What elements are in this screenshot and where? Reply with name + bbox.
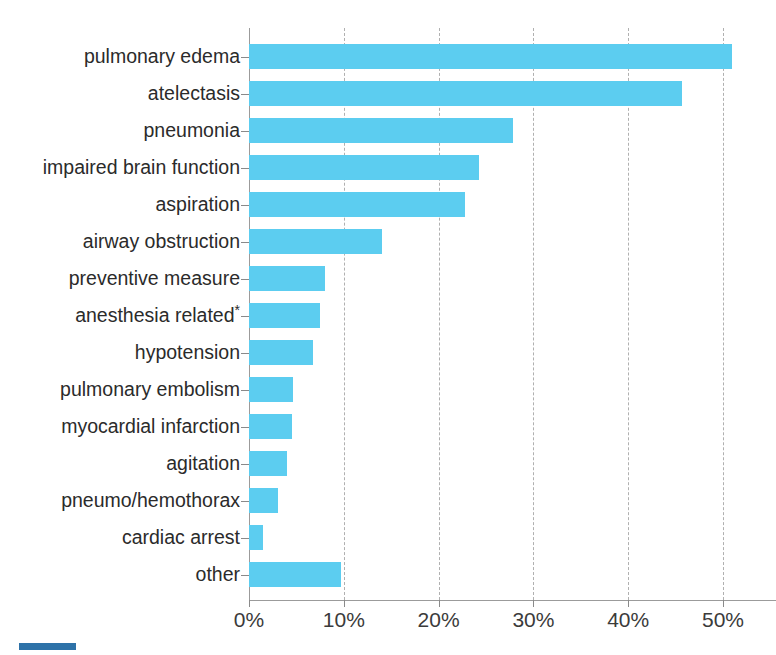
corner-color-swatch (19, 643, 76, 650)
y-axis-tick (241, 279, 249, 280)
y-axis-tick (241, 242, 249, 243)
y-axis-category-label: anesthesia related* (75, 303, 240, 328)
x-axis-tick (723, 600, 724, 607)
y-axis-category-label: preventive measure (69, 266, 240, 291)
x-gridline (723, 28, 724, 600)
bar (249, 266, 325, 291)
bar (249, 229, 382, 254)
x-gridline (628, 28, 629, 600)
x-axis-tick-label: 40% (607, 608, 649, 632)
y-axis-tick (241, 168, 249, 169)
x-axis-tick-label: 10% (323, 608, 365, 632)
y-axis-category-label: airway obstruction (83, 229, 240, 254)
y-axis-tick (241, 427, 249, 428)
x-gridline (439, 28, 440, 600)
bar (249, 414, 292, 439)
y-axis-category-label: pulmonary embolism (60, 377, 240, 402)
bar (249, 525, 263, 550)
footnote-asterisk: * (235, 302, 240, 318)
x-axis-tick-label: 50% (702, 608, 744, 632)
x-axis-tick (628, 600, 629, 607)
bar (249, 81, 682, 106)
y-axis-category-label: agitation (166, 451, 240, 476)
bar (249, 340, 313, 365)
bar (249, 118, 513, 143)
y-axis-tick (241, 131, 249, 132)
y-axis-category-label: aspiration (155, 192, 240, 217)
bar (249, 488, 278, 513)
bar (249, 155, 479, 180)
y-axis-category-label: pneumo/hemothorax (61, 488, 240, 513)
y-axis-tick (241, 390, 249, 391)
y-axis-category-label: pulmonary edema (84, 44, 240, 69)
y-axis-category-label: other (196, 562, 240, 587)
y-axis-tick (241, 464, 249, 465)
x-axis-tick-label: 0% (234, 608, 264, 632)
y-axis-category-label: hypotension (135, 340, 240, 365)
x-axis-tick (439, 600, 440, 607)
x-axis-line (249, 600, 776, 601)
x-axis-tick-label: 30% (512, 608, 554, 632)
bar (249, 303, 320, 328)
y-axis-tick (241, 94, 249, 95)
x-gridline (344, 28, 345, 600)
bar (249, 377, 293, 402)
bar (249, 44, 732, 69)
horizontal-bar-chart: 0%10%20%30%40%50%pulmonary edemaatelecta… (0, 0, 776, 655)
y-axis-tick (241, 57, 249, 58)
x-axis-tick (344, 600, 345, 607)
y-axis-tick (241, 353, 249, 354)
x-axis-tick-label: 20% (418, 608, 460, 632)
x-gridline (533, 28, 534, 600)
y-axis-category-label: atelectasis (148, 81, 240, 106)
y-axis-tick (241, 538, 249, 539)
bar (249, 562, 341, 587)
x-axis-tick (249, 600, 250, 607)
y-axis-tick (241, 575, 249, 576)
y-axis-category-label: pneumonia (144, 118, 241, 143)
y-axis-tick (241, 205, 249, 206)
y-axis-tick (241, 501, 249, 502)
y-axis-category-label: myocardial infarction (61, 414, 240, 439)
bar (249, 451, 287, 476)
bar (249, 192, 465, 217)
y-axis-category-label: cardiac arrest (122, 525, 240, 550)
y-axis-tick (241, 316, 249, 317)
x-axis-tick (533, 600, 534, 607)
y-axis-category-label: impaired brain function (43, 155, 240, 180)
